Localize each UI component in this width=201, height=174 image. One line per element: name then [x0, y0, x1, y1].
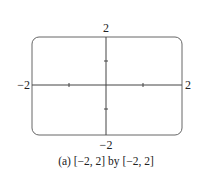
viewing-window-frame: [32, 37, 182, 135]
figure-caption: (a) [−2, 2] by [−2, 2]: [58, 155, 154, 168]
y-max-label: 2: [103, 21, 109, 35]
x-min-label: −2: [17, 78, 30, 92]
x-max-label: 2: [185, 78, 191, 92]
y-min-label: −2: [100, 138, 113, 152]
graphing-window: 2 −2 −2 2 (a) [−2, 2] by [−2, 2]: [0, 0, 201, 174]
